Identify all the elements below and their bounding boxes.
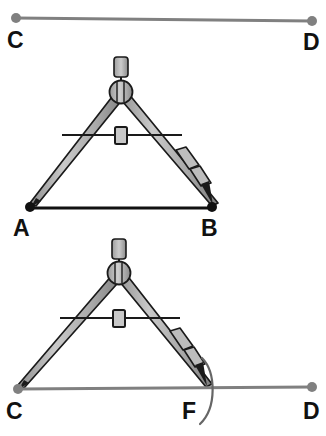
panel-middle-compass-ab: A B: [13, 57, 218, 241]
compass-cd-hinge: [108, 262, 131, 285]
compass-cd-left-leg: [18, 274, 124, 388]
compass-cd-crossbar-clamp: [113, 310, 125, 327]
compass-cd-right-leg: [115, 274, 212, 387]
point-D-bottom-dot: [307, 382, 317, 392]
compass-ab-hinge: [110, 81, 133, 104]
point-C-top-dot: [11, 13, 21, 23]
compass-ab-crossbar-clamp: [115, 127, 127, 144]
compass-ab-right-leg: [117, 93, 218, 206]
compass-construction-figure: C D: [0, 0, 326, 436]
segment-CD-top: [16, 18, 312, 21]
compass-ab-handle-knob: [114, 57, 128, 77]
point-D-top-dot: [307, 16, 317, 26]
point-C-top-label: C: [7, 27, 24, 53]
point-B-dot: [207, 202, 217, 212]
point-A-dot: [25, 202, 35, 212]
point-C-bottom-dot: [13, 384, 23, 394]
point-A-label: A: [13, 215, 30, 241]
compass-ab-left-leg: [30, 93, 126, 206]
panel-bottom-compass-cd: C F D: [6, 239, 320, 424]
diagram-canvas: C D: [0, 0, 326, 436]
point-D-bottom-label: D: [303, 398, 320, 424]
point-D-top-label: D: [303, 29, 320, 55]
segment-CD-bottom: [18, 387, 312, 389]
point-B-label: B: [201, 215, 218, 241]
point-C-bottom-label: C: [6, 398, 23, 424]
point-F-label: F: [182, 398, 196, 424]
compass-cd-handle-knob: [112, 239, 126, 259]
panel-top-ray: C D: [7, 13, 320, 55]
